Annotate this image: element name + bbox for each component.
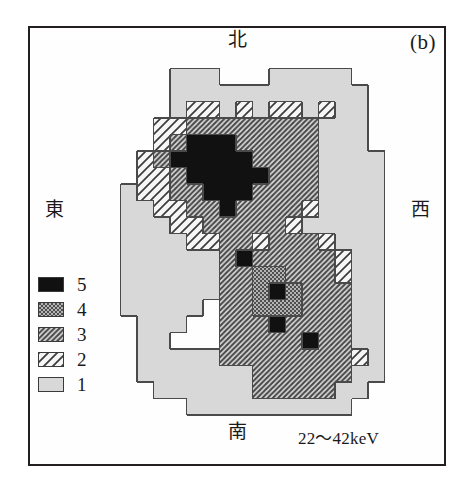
energy-band-label: 22～42keV xyxy=(298,424,379,449)
legend-label-5: 5 xyxy=(77,275,87,294)
direction-label-south: 南 xyxy=(0,422,474,441)
direction-label-west: 西 xyxy=(400,200,440,219)
figure-panel: 北 南 東 西 (b) 22～42keV 5 4 3 2 1 xyxy=(0,0,474,492)
legend-label-1: 1 xyxy=(77,375,87,394)
legend-swatch-2 xyxy=(38,352,64,367)
legend-item: 1 xyxy=(38,372,87,397)
panel-label: (b) xyxy=(410,30,436,55)
legend-item: 5 xyxy=(38,272,87,297)
legend-label-2: 2 xyxy=(77,350,87,369)
radiation-intensity-map xyxy=(0,0,474,492)
direction-label-east: 東 xyxy=(34,200,74,219)
legend-swatch-1 xyxy=(38,377,64,392)
legend-label-4: 4 xyxy=(77,300,87,319)
direction-label-north: 北 xyxy=(0,30,474,49)
legend-swatch-3 xyxy=(38,327,64,342)
legend-swatch-5 xyxy=(38,277,64,292)
legend-item: 2 xyxy=(38,347,87,372)
legend: 5 4 3 2 1 xyxy=(38,272,87,397)
legend-swatch-4 xyxy=(38,302,64,317)
legend-label-3: 3 xyxy=(77,325,87,344)
legend-item: 4 xyxy=(38,297,87,322)
legend-item: 3 xyxy=(38,322,87,347)
